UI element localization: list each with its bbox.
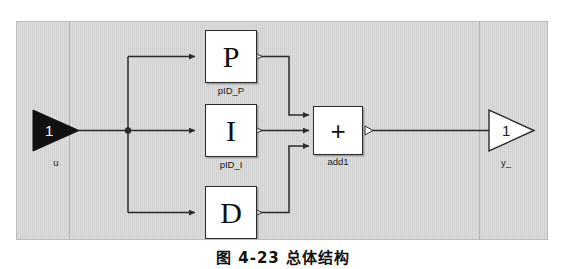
block-add1-glyph: + bbox=[330, 118, 345, 144]
output-port-label: y_ bbox=[466, 157, 546, 168]
block-pid-p-glyph: P bbox=[223, 42, 240, 72]
block-pid-i-glyph: I bbox=[226, 116, 236, 146]
add1-output-port bbox=[365, 126, 373, 135]
block-pid-d-label: pID_D bbox=[171, 238, 291, 240]
block-pid-d-glyph: D bbox=[220, 198, 242, 228]
block-pid-i-label: pID_I bbox=[171, 159, 291, 170]
diagram-canvas: P pID_P I pID_I D pID_D + add1 1 u 1 y_ bbox=[16, 21, 548, 240]
input-port-label: u bbox=[16, 157, 96, 168]
signal-wiring bbox=[17, 22, 548, 240]
figure-page: P pID_P I pID_I D pID_D + add1 1 u 1 y_ … bbox=[0, 0, 566, 269]
block-pid-d[interactable]: D bbox=[205, 186, 257, 239]
block-add1[interactable]: + bbox=[313, 106, 363, 155]
output-port-triangle bbox=[489, 110, 534, 151]
block-pid-p-label: pID_P bbox=[171, 85, 291, 96]
block-pid-p[interactable]: P bbox=[205, 30, 257, 83]
figure-caption: 图 4-23 总体结构 bbox=[0, 246, 566, 269]
input-port-triangle bbox=[33, 110, 79, 151]
block-pid-i[interactable]: I bbox=[205, 104, 257, 157]
block-add1-label: add1 bbox=[278, 156, 398, 167]
